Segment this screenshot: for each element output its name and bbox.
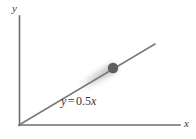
- equation-variable-y: y: [61, 94, 66, 108]
- equation-equals-sign: =: [68, 94, 75, 108]
- x-axis-label: x: [184, 118, 189, 129]
- line-y-equals-half-x: [19, 44, 155, 125]
- y-axis-label: y: [12, 3, 17, 14]
- equation-coefficient: 0.5: [76, 94, 91, 108]
- equation-variable-x: x: [91, 94, 96, 108]
- highlight-trail: [78, 68, 113, 89]
- figure-canvas: [0, 0, 196, 139]
- line-equation-label: y=0.5x: [61, 95, 96, 107]
- line-graph-figure: y x y=0.5x: [0, 0, 196, 139]
- data-point-marker: [108, 63, 118, 73]
